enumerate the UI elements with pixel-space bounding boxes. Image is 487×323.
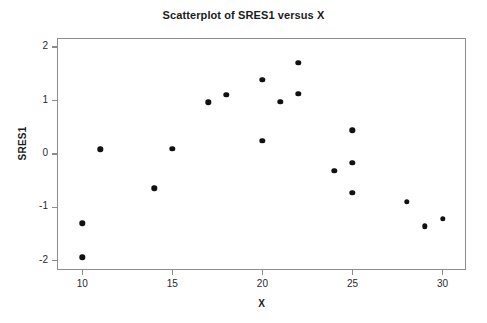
x-tick-label: 30: [423, 279, 463, 289]
x-tick-mark: [262, 270, 263, 275]
x-tick-mark: [172, 270, 173, 275]
y-tick-mark: [52, 207, 57, 208]
y-tick-label: 2: [8, 41, 48, 51]
x-tick-label: 10: [62, 279, 102, 289]
chart-title: Scatterplot of SRES1 versus X: [0, 9, 487, 21]
x-tick-label: 15: [152, 279, 192, 289]
x-tick-label: 20: [242, 279, 282, 289]
y-tick-mark: [52, 260, 57, 261]
y-tick-mark: [52, 46, 57, 47]
y-tick-mark: [52, 100, 57, 101]
y-tick-mark: [52, 153, 57, 154]
plot-area: [57, 38, 466, 270]
y-axis-label: SRES1: [17, 114, 28, 174]
x-tick-label: 25: [332, 279, 372, 289]
y-tick-label: -2: [8, 255, 48, 265]
x-tick-mark: [352, 270, 353, 275]
x-tick-mark: [82, 270, 83, 275]
y-tick-label: 1: [8, 95, 48, 105]
y-tick-label: 0: [8, 148, 48, 158]
y-tick-label: -1: [8, 201, 48, 211]
scatterplot-figure: Scatterplot of SRES1 versus X SRES1 210-…: [0, 0, 487, 323]
x-axis-label: X: [57, 298, 466, 309]
x-tick-mark: [442, 270, 443, 275]
